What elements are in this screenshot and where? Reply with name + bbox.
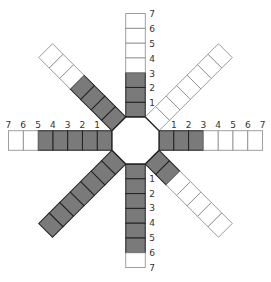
label-right-3: 3 <box>201 120 207 130</box>
label-bottom-5: 5 <box>149 233 155 243</box>
arm-lower-left <box>39 150 126 237</box>
arm-left <box>8 131 112 151</box>
center-octagon <box>112 117 159 164</box>
arm-upper-right <box>145 44 232 131</box>
cell-left-6-empty <box>23 131 38 151</box>
label-top-6: 6 <box>149 24 155 34</box>
cell-top-5-empty <box>126 43 146 58</box>
octagon-arm-diagram: 1234567123456712345671234567 <box>0 0 271 282</box>
label-left-5: 5 <box>35 120 41 130</box>
cell-top-6-empty <box>126 28 146 43</box>
label-bottom-4: 4 <box>149 218 155 228</box>
label-top-5: 5 <box>149 39 155 49</box>
cell-bottom-1-filled <box>126 164 146 179</box>
label-left-7: 7 <box>6 120 12 130</box>
cell-right-4-empty <box>203 131 218 151</box>
cell-bottom-2-filled <box>126 179 146 194</box>
arm-right <box>159 131 263 151</box>
arm-top <box>126 13 146 117</box>
label-right-5: 5 <box>230 120 236 130</box>
label-bottom-3: 3 <box>149 203 155 213</box>
label-bottom-1: 1 <box>149 174 155 184</box>
label-left-3: 3 <box>65 120 71 130</box>
cell-top-2-filled <box>126 87 146 102</box>
label-left-2: 2 <box>80 120 86 130</box>
label-bottom-6: 6 <box>149 248 155 258</box>
label-top-2: 2 <box>149 83 155 93</box>
cell-left-5-filled <box>38 131 53 151</box>
cell-right-7-empty <box>248 131 263 151</box>
label-right-6: 6 <box>245 120 251 130</box>
cell-bottom-5-filled <box>126 223 146 238</box>
cell-left-3-filled <box>68 131 83 151</box>
cell-top-3-filled <box>126 73 146 88</box>
cell-left-1-filled <box>97 131 112 151</box>
cell-bottom-6-filled <box>126 238 146 253</box>
cell-top-7-empty <box>126 13 146 28</box>
label-right-7: 7 <box>260 120 266 130</box>
cell-right-3-filled <box>189 131 204 151</box>
label-top-7: 7 <box>149 9 155 19</box>
label-top-4: 4 <box>149 54 155 64</box>
cell-bottom-7-empty <box>126 253 146 268</box>
arm-lower-right <box>145 150 232 237</box>
label-right-2: 2 <box>186 120 192 130</box>
label-top-3: 3 <box>149 69 155 79</box>
cell-left-7-empty <box>8 131 23 151</box>
label-top-1: 1 <box>149 98 155 108</box>
label-right-4: 4 <box>215 120 221 130</box>
label-bottom-7: 7 <box>149 263 155 273</box>
label-bottom-2: 2 <box>149 189 155 199</box>
cell-left-2-filled <box>82 131 97 151</box>
arm-upper-left <box>39 44 126 131</box>
cell-top-4-empty <box>126 58 146 73</box>
cell-top-1-filled <box>126 102 146 117</box>
cell-right-5-empty <box>218 131 233 151</box>
label-left-1: 1 <box>94 120 100 130</box>
cell-right-6-empty <box>233 131 248 151</box>
cell-left-4-filled <box>53 131 68 151</box>
arm-bottom <box>126 164 146 268</box>
label-right-1: 1 <box>171 120 177 130</box>
cell-right-1-filled <box>159 131 174 151</box>
cell-bottom-3-filled <box>126 194 146 209</box>
cell-right-2-filled <box>174 131 189 151</box>
cell-bottom-4-filled <box>126 208 146 223</box>
label-left-4: 4 <box>50 120 56 130</box>
label-left-6: 6 <box>20 120 26 130</box>
